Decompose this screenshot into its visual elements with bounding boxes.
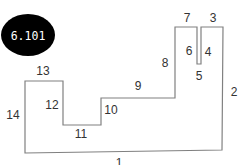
edge-label-7: 7 <box>184 11 191 25</box>
edge-label-11: 11 <box>75 127 88 141</box>
badge: 6.101 <box>1 14 55 56</box>
edge-label-9: 9 <box>135 79 142 93</box>
edge-label-3: 3 <box>210 11 217 25</box>
edge-label-14: 14 <box>6 108 20 122</box>
outline-polygon <box>25 27 223 153</box>
edge-label-4: 4 <box>205 45 212 59</box>
edge-label-1: 1 <box>116 156 123 165</box>
edge-label-13: 13 <box>36 64 50 78</box>
edge-label-6: 6 <box>186 44 193 58</box>
edge-label-5: 5 <box>196 69 203 83</box>
polygon-diagram: 6.101 1 2 3 4 5 6 7 8 9 10 11 12 13 14 <box>0 0 242 165</box>
badge-label: 6.101 <box>11 29 46 43</box>
edge-label-2: 2 <box>231 85 238 99</box>
edge-label-12: 12 <box>45 98 59 112</box>
edge-label-8: 8 <box>162 56 169 70</box>
edge-label-10: 10 <box>104 103 118 117</box>
